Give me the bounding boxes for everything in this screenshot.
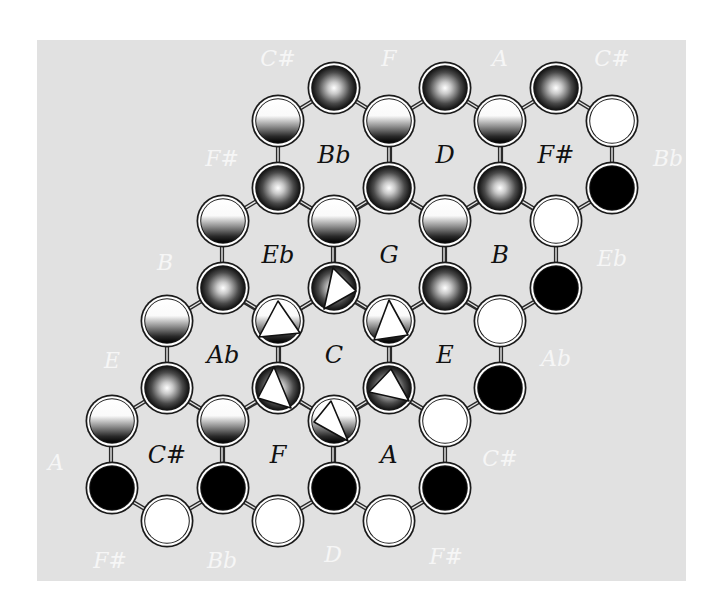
- key-label-outer: E: [103, 348, 120, 373]
- key-label-outer: Eb: [596, 246, 627, 271]
- node-ball-radial-tri: [252, 362, 305, 415]
- node-ball-black: [308, 462, 361, 515]
- node-ball-linear: [197, 195, 250, 248]
- key-label-outer: A: [46, 450, 64, 475]
- node-ball-black: [474, 362, 527, 415]
- node-ball-radial-tri: [363, 362, 416, 415]
- node-ball-radial: [141, 362, 194, 415]
- tonnetz-diagram: BbDF#EbGBAbCEC#FA C#FAC#F#BbBEbEAbAC#F#B…: [0, 0, 708, 615]
- key-label-inner: D: [434, 141, 454, 169]
- key-label-inner: Eb: [261, 241, 295, 269]
- node-ball-linear: [474, 95, 527, 148]
- node-ball-linear: [86, 395, 139, 448]
- node-ball-linear: [141, 295, 194, 348]
- node-ball-white: [252, 495, 305, 548]
- node-ball-black: [419, 462, 472, 515]
- node-ball-radial: [308, 62, 361, 115]
- key-label-outer: B: [156, 250, 173, 275]
- node-ball-linear: [308, 195, 361, 248]
- key-label-outer: F#: [204, 146, 239, 171]
- key-label-inner: B: [490, 241, 509, 269]
- key-label-outer: Bb: [652, 146, 683, 171]
- node-ball-black: [86, 462, 139, 515]
- key-label-outer: C#: [482, 446, 517, 471]
- node-ball-black: [586, 162, 639, 215]
- key-label-outer: Ab: [539, 346, 571, 371]
- node-ball-radial: [363, 162, 416, 215]
- key-label-outer: A: [490, 46, 508, 71]
- key-label-inner: E: [435, 341, 454, 369]
- key-label-inner: Ab: [205, 341, 240, 369]
- key-label-outer: F#: [92, 548, 127, 573]
- key-label-inner: A: [378, 441, 397, 469]
- key-label-outer: Bb: [206, 548, 237, 573]
- key-label-outer: C#: [260, 46, 295, 71]
- node-ball-radial: [252, 162, 305, 215]
- key-label-inner: C: [325, 341, 343, 369]
- node-ball-linear: [419, 195, 472, 248]
- node-ball-linear-tri: [308, 395, 361, 448]
- key-label-inner: C#: [148, 441, 186, 469]
- key-label-outer: D: [323, 542, 342, 567]
- node-ball-white: [141, 495, 194, 548]
- key-label-outer: F#: [428, 544, 463, 569]
- node-ball-radial: [419, 262, 472, 315]
- node-ball-radial: [474, 162, 527, 215]
- key-label-inner: G: [379, 241, 398, 269]
- node-ball-black: [197, 462, 250, 515]
- key-label-outer: F: [380, 46, 397, 71]
- node-ball-white: [363, 495, 416, 548]
- node-ball-radial: [530, 62, 583, 115]
- node-ball-linear-tri: [363, 295, 416, 348]
- node-ball-white: [474, 295, 527, 348]
- node-ball-linear-tri: [252, 295, 305, 348]
- node-ball-linear: [197, 395, 250, 448]
- node-ball-black: [530, 262, 583, 315]
- node-ball-radial-tri: [308, 262, 361, 315]
- node-ball-radial: [197, 262, 250, 315]
- node-ball-linear: [363, 95, 416, 148]
- key-label-inner: Bb: [317, 141, 351, 169]
- key-label-outer: C#: [594, 46, 629, 71]
- node-ball-radial: [419, 62, 472, 115]
- node-ball-linear: [252, 95, 305, 148]
- key-label-inner: F: [269, 441, 288, 469]
- node-ball-white: [530, 195, 583, 248]
- node-ball-white: [586, 95, 639, 148]
- node-ball-white: [419, 395, 472, 448]
- key-label-inner: F#: [537, 141, 575, 169]
